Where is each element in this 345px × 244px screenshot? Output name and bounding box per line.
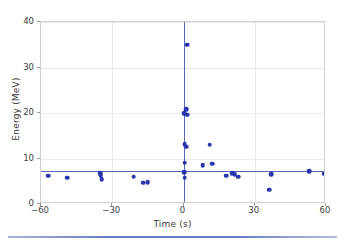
y-tick-mark xyxy=(37,203,40,204)
x-tick-mark xyxy=(325,203,326,206)
gridline-horizontal xyxy=(41,68,324,69)
x-tick-mark xyxy=(111,203,112,206)
data-point xyxy=(185,113,190,118)
y-tick-label: 20 xyxy=(4,107,34,117)
x-tick-label: 0 xyxy=(163,205,203,215)
scatter-plot-figure: Time (s) Energy (MeV) −60−30030600102030… xyxy=(0,0,345,244)
y-tick-label: 30 xyxy=(4,62,34,72)
data-point xyxy=(236,174,241,179)
y-tick-mark xyxy=(37,112,40,113)
data-point xyxy=(65,175,70,180)
y-tick-mark xyxy=(37,21,40,22)
data-point xyxy=(321,171,325,176)
gridline-horizontal xyxy=(41,22,324,23)
data-point xyxy=(185,42,190,47)
data-point xyxy=(182,170,187,175)
data-point xyxy=(267,188,272,193)
data-point xyxy=(200,163,205,168)
bottom-divider-rule xyxy=(8,236,337,238)
gridline-vertical xyxy=(255,22,256,202)
data-point xyxy=(99,177,104,182)
x-tick-label: −30 xyxy=(91,205,131,215)
data-point xyxy=(182,160,187,165)
data-point xyxy=(131,174,136,179)
y-tick-label: 40 xyxy=(4,16,34,26)
y-tick-mark xyxy=(37,158,40,159)
data-point xyxy=(307,169,312,174)
x-tick-mark xyxy=(254,203,255,206)
x-tick-mark xyxy=(183,203,184,206)
data-point xyxy=(182,175,187,180)
x-tick-label: 60 xyxy=(305,205,345,215)
data-point xyxy=(269,172,274,177)
y-tick-label: 10 xyxy=(4,153,34,163)
x-tick-label: 30 xyxy=(234,205,274,215)
data-point xyxy=(210,161,215,166)
data-point xyxy=(224,173,229,178)
x-axis-title: Time (s) xyxy=(0,219,345,229)
plot-area xyxy=(40,21,325,203)
x-tick-mark xyxy=(40,203,41,206)
gridline-vertical xyxy=(112,22,113,202)
y-tick-mark xyxy=(37,67,40,68)
data-point xyxy=(146,180,151,185)
data-point xyxy=(184,144,189,149)
data-point xyxy=(207,143,212,148)
y-tick-label: 0 xyxy=(4,198,34,208)
data-point xyxy=(46,173,51,178)
